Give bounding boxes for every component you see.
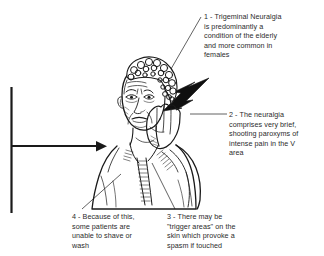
garment-fold-b <box>113 181 116 207</box>
glabella-furrow <box>137 89 142 94</box>
axis-arrow-group <box>12 87 108 213</box>
pupil-left <box>130 96 133 99</box>
neck-outline <box>130 126 159 146</box>
garment-fold-d <box>178 180 184 207</box>
illustration-page: 1 - Trigeminal Neuralgia is predominantl… <box>0 0 324 256</box>
leader-line-1 <box>171 17 201 69</box>
ear-inner <box>120 99 121 106</box>
chin-crease <box>135 126 146 128</box>
leader-line-3 <box>152 163 175 209</box>
patient-drawing <box>92 57 200 209</box>
garment-fold-a <box>101 176 107 205</box>
callout-text-2: 2 - The neuralgia comprises very brief, … <box>229 110 324 158</box>
nostril-line <box>141 110 145 112</box>
eyebag-left <box>126 101 137 103</box>
finger-line-1 <box>156 108 157 131</box>
forehead-wrinkles <box>127 82 147 88</box>
arm-outline <box>176 145 200 209</box>
callout-text-3: 3 - There may be "trigger areas" on the … <box>167 212 259 250</box>
eyebrow-left <box>126 90 136 92</box>
eyebrow-right <box>144 90 153 93</box>
nose-outline <box>134 98 141 114</box>
lower-lip-line <box>133 121 146 123</box>
finger-line-3 <box>170 108 171 134</box>
arrow-head-icon <box>96 141 107 152</box>
shoulder-hatching-left <box>124 150 134 161</box>
mouth-line <box>132 118 147 120</box>
eyebag-right <box>144 101 154 103</box>
placket-right-edge <box>146 158 152 205</box>
callout-text-4: 4 - Because of this, some patients are u… <box>72 212 164 250</box>
garment-shoulder-left <box>108 148 119 172</box>
pupil-right <box>148 96 151 99</box>
callout-text-1: 1 - Trigeminal Neuralgia is predominantl… <box>204 12 322 60</box>
placket-ribbing <box>137 161 150 201</box>
